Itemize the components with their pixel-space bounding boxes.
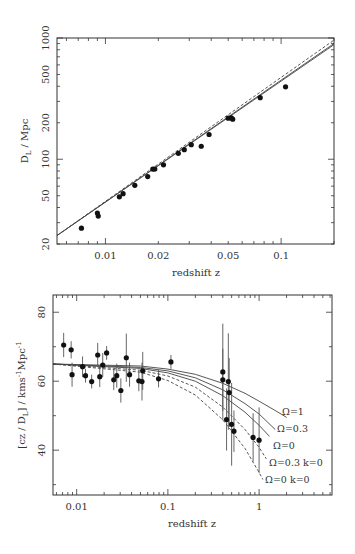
y-tick-label: 40 (36, 444, 47, 457)
data-point (182, 147, 187, 152)
y-tick-label: 500 (40, 65, 51, 84)
y-tick-label: 50 (40, 189, 51, 202)
x-tick-label: 0.1 (273, 250, 289, 261)
data-point (96, 213, 101, 218)
data-point (140, 368, 145, 373)
y-tick-label: 20 (40, 238, 51, 251)
data-point (114, 373, 119, 378)
data-point (176, 151, 181, 156)
data-point (156, 376, 161, 381)
data-point (168, 359, 173, 364)
data-point (80, 364, 85, 369)
curve-labels: Ω=1Ω=0.3Ω=0Ω=0.3 k=0Ω=0 k=0 (265, 406, 323, 485)
bottom-errorbars (64, 324, 259, 473)
data-point (69, 347, 74, 352)
data-point (83, 373, 88, 378)
curve-label: Ω=0 (273, 440, 295, 451)
model-curve (57, 40, 334, 235)
bottom-panel-hubble-constant: 0.010.11406080 Ω=1Ω=0.3Ω=0Ω=0.3 k=0Ω=0 k… (15, 295, 332, 529)
data-point (79, 226, 84, 231)
data-point (89, 379, 94, 384)
y-tick-label: 100 (40, 150, 51, 169)
curve-label: Ω=1 (282, 406, 304, 417)
model-curve (53, 364, 287, 417)
data-point (120, 191, 125, 196)
y-tick-label: 1000 (40, 25, 51, 50)
data-point (152, 166, 157, 171)
data-point (69, 372, 74, 377)
top-y-axis-label: DL / Mpc (19, 118, 33, 163)
bottom-y-axis-label: [cz / DL] / kms-1Mpc-1 (15, 341, 30, 448)
data-point (220, 377, 225, 382)
x-tick-label: 0.05 (217, 250, 239, 261)
top-tick-labels: 0.010.020.050.120501002005001000 (40, 25, 289, 261)
data-point (139, 379, 144, 384)
x-tick-label: 0.1 (160, 501, 176, 512)
data-point (224, 417, 229, 422)
data-point (283, 84, 288, 89)
curve-label: Ω=0 k=0 (265, 474, 310, 485)
data-point (256, 438, 261, 443)
data-point (206, 132, 211, 137)
data-point (220, 369, 225, 374)
data-point (199, 144, 204, 149)
data-point (145, 174, 150, 179)
data-point (100, 362, 105, 367)
x-tick-label: 0.01 (94, 250, 116, 261)
bottom-curves (53, 364, 287, 480)
top-x-axis-label: redshift z (172, 267, 220, 278)
data-point (118, 388, 123, 393)
data-point (231, 429, 236, 434)
top-curves (57, 40, 334, 235)
data-point (95, 352, 100, 357)
y-tick-label: 80 (36, 306, 47, 319)
data-point (161, 162, 166, 167)
data-point (61, 342, 66, 347)
top-points (79, 84, 288, 231)
data-point (189, 142, 194, 147)
data-point (226, 379, 231, 384)
curve-label: Ω=0.3 (277, 423, 308, 434)
figure: 0.010.020.050.120501002005001000 redshif… (0, 0, 355, 554)
data-point (251, 435, 256, 440)
top-panel-luminosity-distance: 0.010.020.050.120501002005001000 redshif… (19, 25, 334, 278)
data-point (104, 350, 109, 355)
data-point (229, 422, 234, 427)
curve-label: Ω=0.3 k=0 (269, 457, 323, 468)
data-point (127, 372, 132, 377)
data-point (97, 374, 102, 379)
y-tick-label: 60 (36, 375, 47, 388)
y-tick-label: 200 (40, 113, 51, 132)
x-tick-label: 0.02 (147, 250, 169, 261)
x-tick-label: 1 (256, 501, 262, 512)
data-point (132, 183, 137, 188)
data-point (230, 117, 235, 122)
data-point (124, 355, 129, 360)
data-point (258, 95, 263, 100)
x-tick-label: 0.01 (66, 501, 88, 512)
data-point (227, 390, 232, 395)
bottom-x-axis-label: redshift z (168, 518, 216, 529)
